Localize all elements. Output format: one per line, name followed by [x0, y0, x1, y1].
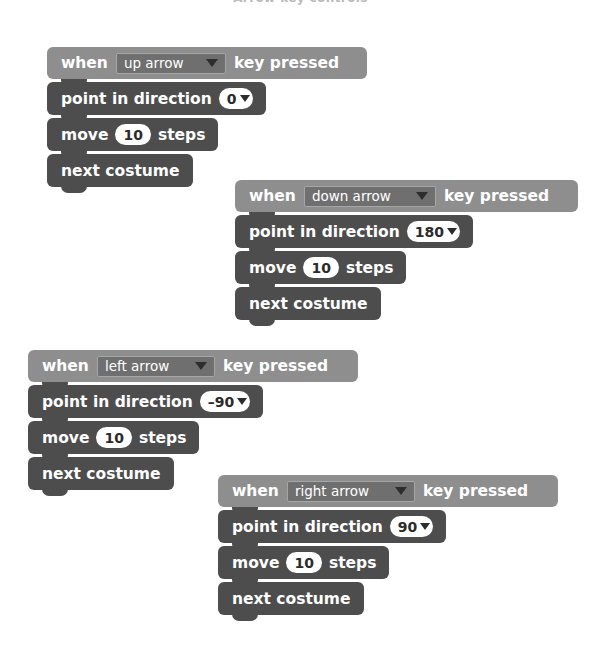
direction-field-value: 180 [415, 224, 444, 240]
key-dropdown-label: up arrow [124, 55, 199, 71]
key-dropdown-label: right arrow [295, 483, 388, 499]
direction-field-value: 90 [398, 519, 417, 535]
steps-field-value: 10 [104, 430, 123, 446]
stack-block-row: point in direction0 [47, 79, 367, 115]
move-steps-block[interactable]: move10steps [28, 421, 199, 454]
chevron-down-icon [447, 228, 457, 235]
point-in-direction-block[interactable]: point in direction0 [47, 82, 266, 115]
direction-field-value: 0 [227, 91, 237, 107]
point-in-direction-block[interactable]: point in direction180 [235, 215, 473, 248]
stack-block-row: move10steps [47, 115, 367, 151]
chevron-down-icon [395, 487, 407, 495]
point-in-direction-block[interactable]: point in direction–90 [28, 385, 263, 418]
key-dropdown[interactable]: left arrow [97, 356, 215, 377]
chevron-down-icon [240, 95, 250, 102]
next-costume-block-label: next costume [232, 590, 351, 608]
hat-prefix-label: when [232, 482, 279, 500]
next-costume-block[interactable]: next costume [28, 457, 174, 490]
hat-prefix-label: when [42, 357, 89, 375]
key-dropdown[interactable]: down arrow [304, 186, 436, 207]
hat-suffix-label: key pressed [444, 187, 549, 205]
chevron-down-icon [416, 192, 428, 200]
steps-field-value: 10 [123, 127, 142, 143]
next-costume-block[interactable]: next costume [218, 582, 364, 615]
point-in-direction-block[interactable]: point in direction90 [218, 510, 446, 543]
move-steps-block-label-before: move [42, 429, 89, 447]
stack-block-row: next costume [218, 579, 558, 615]
direction-field[interactable]: 90 [390, 516, 433, 537]
steps-field[interactable]: 10 [286, 552, 321, 573]
steps-field-value: 10 [294, 555, 313, 571]
stack-block-row: move10steps [28, 418, 358, 454]
key-dropdown[interactable]: up arrow [116, 53, 226, 74]
steps-field[interactable]: 10 [115, 124, 150, 145]
next-costume-block-label: next costume [61, 162, 180, 180]
script-right-arrow: whenright arrowkey pressedpoint in direc… [218, 455, 558, 615]
move-steps-block[interactable]: move10steps [235, 251, 406, 284]
chevron-down-icon [420, 523, 430, 530]
hat-prefix-label: when [61, 54, 108, 72]
key-dropdown[interactable]: right arrow [287, 481, 415, 502]
direction-field[interactable]: 180 [407, 221, 460, 242]
steps-field[interactable]: 10 [96, 427, 131, 448]
next-costume-block[interactable]: next costume [235, 287, 381, 320]
chevron-down-icon [206, 59, 218, 67]
point-in-direction-block-label: point in direction [61, 90, 212, 108]
key-dropdown-label: left arrow [105, 358, 188, 374]
stack-block-row: move10steps [218, 543, 558, 579]
move-steps-block[interactable]: move10steps [47, 118, 218, 151]
chevron-down-icon [237, 398, 247, 405]
point-in-direction-block-label: point in direction [42, 393, 193, 411]
hat-suffix-label: key pressed [223, 357, 328, 375]
hat-suffix-label: key pressed [234, 54, 339, 72]
direction-field-value: –90 [208, 394, 234, 410]
next-costume-block[interactable]: next costume [47, 154, 193, 187]
page-title: Arrow key controls [0, 0, 601, 5]
move-steps-block[interactable]: move10steps [218, 546, 389, 579]
next-costume-block-label: next costume [249, 295, 368, 313]
direction-field[interactable]: –90 [200, 391, 250, 412]
point-in-direction-block-label: point in direction [232, 518, 383, 536]
hat-block-wrapper: whenright arrowkey pressed [218, 475, 558, 507]
key-dropdown-label: down arrow [312, 188, 409, 204]
hat-block-wrapper: whendown arrowkey pressed [235, 180, 578, 212]
move-steps-block-label-before: move [232, 554, 279, 572]
script-down-arrow: whendown arrowkey pressedpoint in direct… [235, 160, 578, 320]
hat-block-wrapper: whenleft arrowkey pressed [28, 350, 358, 382]
stack-block-row: point in direction–90 [28, 382, 358, 418]
when-key-pressed-block[interactable]: whenup arrowkey pressed [47, 47, 367, 79]
stack-block-row: move10steps [235, 248, 578, 284]
steps-field[interactable]: 10 [303, 257, 338, 278]
move-steps-block-label-after: steps [139, 429, 186, 447]
when-key-pressed-block[interactable]: whenright arrowkey pressed [218, 475, 558, 507]
stack-block-row: point in direction90 [218, 507, 558, 543]
when-key-pressed-block[interactable]: whendown arrowkey pressed [235, 180, 578, 212]
chevron-down-icon [195, 362, 207, 370]
move-steps-block-label-after: steps [329, 554, 376, 572]
move-steps-block-label-after: steps [158, 126, 205, 144]
hat-suffix-label: key pressed [423, 482, 528, 500]
move-steps-block-label-before: move [61, 126, 108, 144]
move-steps-block-label-before: move [249, 259, 296, 277]
point-in-direction-block-label: point in direction [249, 223, 400, 241]
stack-block-row: next costume [235, 284, 578, 320]
steps-field-value: 10 [311, 260, 330, 276]
move-steps-block-label-after: steps [346, 259, 393, 277]
direction-field[interactable]: 0 [219, 88, 253, 109]
hat-prefix-label: when [249, 187, 296, 205]
hat-block-wrapper: whenup arrowkey pressed [47, 47, 367, 79]
next-costume-block-label: next costume [42, 465, 161, 483]
when-key-pressed-block[interactable]: whenleft arrowkey pressed [28, 350, 358, 382]
stack-block-row: point in direction180 [235, 212, 578, 248]
